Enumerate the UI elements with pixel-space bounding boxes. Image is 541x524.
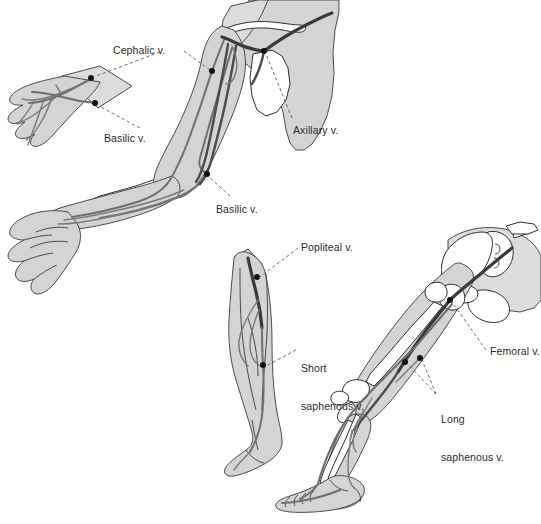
label-cephalic-vein: Cephalic v.: [113, 44, 165, 57]
marker-short-saphenous: [260, 362, 266, 368]
greater-trochanter-bone: [425, 282, 447, 302]
leader-long-saphenous-2: [408, 364, 436, 394]
leader-basilic-arm: [209, 177, 230, 196]
marker-femoral: [447, 297, 453, 303]
marker-axillary: [261, 48, 267, 54]
marker-basilic-arm: [204, 171, 210, 177]
label-long-saphenous-line-1: Long: [441, 413, 504, 426]
label-axillary-vein: Axillary v.: [293, 124, 338, 137]
leader-long-saphenous: [422, 360, 436, 394]
marker-cephalic-arm: [209, 68, 215, 74]
dorsal-hand-silhouette: [8, 76, 100, 146]
marker-long-saphenous-1: [402, 359, 408, 365]
leader-popliteal: [260, 248, 298, 277]
label-long-saphenous-vein: Long saphenous v.: [441, 388, 504, 488]
label-popliteal-vein: Popliteal v.: [301, 241, 353, 254]
vein-anatomy-figure: Cephalic v. Basilic v. Axillary v. Basil…: [0, 0, 541, 524]
label-short-saphenous-line-1: Short: [301, 362, 364, 375]
label-long-saphenous-line-2: saphenous v.: [441, 451, 504, 464]
lower-leg-panel: [224, 248, 298, 476]
marker-long-saphenous-2: [417, 355, 423, 361]
marker-popliteal: [254, 274, 260, 280]
label-short-saphenous-vein: Short saphenous v.: [301, 337, 364, 437]
upper-limb-panel: [8, 0, 339, 294]
label-basilic-vein-arm: Basilic v.: [216, 203, 258, 216]
label-femoral-vein: Femoral v.: [490, 345, 540, 358]
lumbar-vertebra: [506, 222, 538, 234]
leader-basilic-hand: [99, 106, 140, 128]
marker-basilic-hand: [92, 100, 98, 106]
label-basilic-vein-hand: Basilic v.: [104, 132, 146, 145]
label-short-saphenous-line-2: saphenous v.: [301, 400, 364, 413]
marker-cephalic-hand: [88, 75, 94, 81]
